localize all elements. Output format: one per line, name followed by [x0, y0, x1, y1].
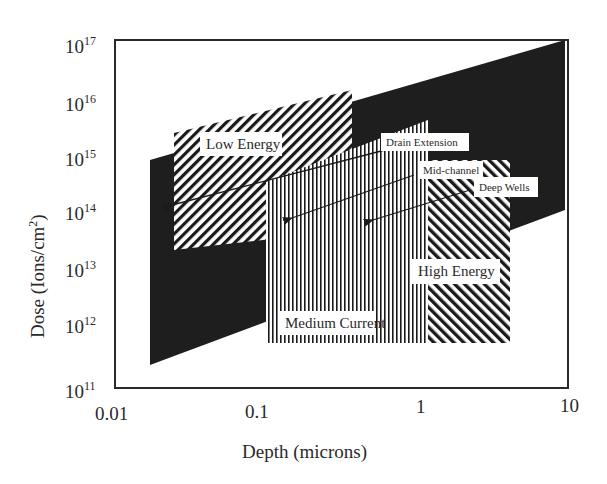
- low-energy-label: Low Energy: [206, 136, 281, 152]
- mid-channel-label: Mid-channel: [423, 164, 479, 176]
- x-tick-0.01: 0.01: [95, 403, 128, 424]
- y-axis-label: Dose (Ions/cm2): [26, 214, 49, 338]
- y-tick-1e16: 1016: [65, 92, 96, 115]
- y-tick-1e15: 1015: [65, 147, 96, 170]
- x-tick-1: 1: [416, 396, 426, 417]
- medium-current-label: Medium Current: [285, 315, 386, 331]
- deep-wells-label: Deep Wells: [479, 181, 530, 193]
- x-axis-label: Depth (microns): [242, 441, 367, 463]
- y-tick-1e13: 1013: [65, 258, 96, 281]
- x-axis-ticks: 0.01 0.1 1 10: [95, 395, 579, 424]
- chart: Low Energy Medium Current High Energy Dr…: [0, 0, 607, 484]
- y-tick-1e17: 1017: [65, 34, 96, 57]
- y-tick-1e12: 1012: [65, 314, 96, 337]
- y-tick-1e11: 1011: [65, 379, 96, 402]
- y-axis-ticks: 1017 1016 1015 1014 1013 1012 1011: [65, 34, 96, 402]
- x-tick-0.1: 0.1: [245, 401, 269, 422]
- y-tick-1e14: 1014: [65, 201, 96, 224]
- drain-extension-label: Drain Extension: [386, 136, 458, 148]
- high-energy-label: High Energy: [418, 263, 495, 279]
- x-tick-10: 10: [560, 395, 579, 416]
